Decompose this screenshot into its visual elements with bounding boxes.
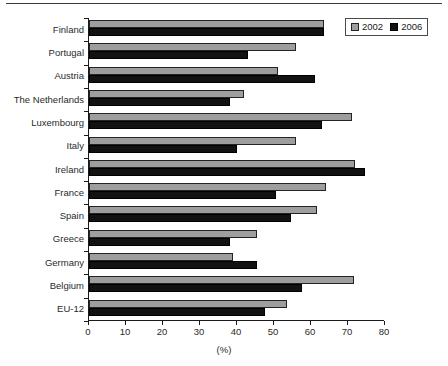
y-axis-tick: [84, 274, 88, 275]
y-axis-label-italy: Italy: [0, 141, 84, 151]
bar-group-ireland: [88, 158, 384, 181]
bar-2002-luxembourg: [89, 113, 352, 121]
x-axis-tick: [125, 321, 126, 325]
y-axis-label-finland: Finland: [0, 25, 84, 35]
bar-2006-spain: [89, 214, 291, 222]
x-axis-tick-label-40: 40: [221, 326, 251, 337]
bar-2006-the-netherlands: [89, 98, 230, 106]
bar-group-italy: [88, 135, 384, 158]
bar-2002-spain: [89, 206, 317, 214]
y-axis-label-ireland: Ireland: [0, 165, 84, 175]
bar-2002-ireland: [89, 160, 355, 168]
legend-label-2002: 2002: [362, 22, 383, 32]
bar-2006-finland: [89, 28, 324, 36]
legend-entry-2006: 2006: [390, 22, 422, 32]
x-axis-title: (%): [0, 344, 448, 355]
bar-2006-eu-12: [89, 308, 265, 316]
bar-2006-france: [89, 191, 276, 199]
bar-2006-germany: [89, 261, 257, 269]
bar-group-the-netherlands: [88, 88, 384, 111]
top-divider-rule: [6, 3, 442, 4]
y-axis-tick: [84, 181, 88, 182]
y-axis-tick: [84, 111, 88, 112]
y-axis-tick: [84, 158, 88, 159]
x-axis-tick-label-80: 80: [369, 326, 399, 337]
x-axis-tick: [236, 321, 237, 325]
bar-2006-luxembourg: [89, 121, 322, 129]
bar-2002-greece: [89, 230, 257, 238]
y-axis-tick: [84, 204, 88, 205]
x-axis-tick-label-10: 10: [110, 326, 140, 337]
bar-group-austria: [88, 65, 384, 88]
bar-group-eu-12: [88, 298, 384, 321]
y-axis-tick: [84, 18, 88, 19]
y-axis-label-spain: Spain: [0, 211, 84, 221]
bar-group-greece: [88, 228, 384, 251]
x-axis-tick-label-70: 70: [332, 326, 362, 337]
bar-2006-portugal: [89, 51, 248, 59]
y-axis-label-france: France: [0, 188, 84, 198]
x-axis-tick: [199, 321, 200, 325]
bar-2002-portugal: [89, 43, 296, 51]
y-axis-tick: [84, 41, 88, 42]
bar-2002-eu-12: [89, 300, 287, 308]
bar-2006-austria: [89, 75, 315, 83]
bar-2002-italy: [89, 137, 296, 145]
x-axis-tick: [384, 321, 385, 325]
y-axis-tick: [84, 88, 88, 89]
y-axis-tick: [84, 251, 88, 252]
grey-swatch-icon: [351, 23, 359, 31]
y-axis-tick: [84, 65, 88, 66]
x-axis-tick: [162, 321, 163, 325]
y-axis-label-germany: Germany: [0, 258, 84, 268]
y-axis-tick: [84, 135, 88, 136]
y-axis-tick: [84, 228, 88, 229]
legend-entry-2002: 2002: [351, 22, 383, 32]
bar-2002-austria: [89, 67, 278, 75]
x-axis-tick: [273, 321, 274, 325]
y-axis-label-greece: Greece: [0, 234, 84, 244]
bar-group-belgium: [88, 274, 384, 297]
bar-2002-finland: [89, 20, 324, 28]
black-swatch-icon: [390, 23, 398, 31]
x-axis-tick: [88, 321, 89, 325]
y-axis-label-portugal: Portugal: [0, 48, 84, 58]
bar-group-luxembourg: [88, 111, 384, 134]
bar-group-spain: [88, 204, 384, 227]
bar-group-germany: [88, 251, 384, 274]
bar-2002-the-netherlands: [89, 90, 244, 98]
x-axis-tick-label-60: 60: [295, 326, 325, 337]
x-axis-tick-label-50: 50: [258, 326, 288, 337]
bar-2006-belgium: [89, 284, 302, 292]
y-axis-category-labels: FinlandPortugalAustriaThe NetherlandsLux…: [0, 18, 84, 321]
y-axis-label-the-netherlands: The Netherlands: [0, 95, 84, 105]
y-axis-label-luxembourg: Luxembourg: [0, 118, 84, 128]
plot-area: [88, 18, 384, 321]
bar-group-finland: [88, 18, 384, 41]
chart-legend: 2002 2006: [345, 18, 428, 36]
bar-2002-germany: [89, 253, 233, 261]
x-axis-tick-label-0: 0: [73, 326, 103, 337]
chart-figure: FinlandPortugalAustriaThe NetherlandsLux…: [0, 0, 448, 366]
bar-2006-italy: [89, 145, 237, 153]
x-axis-tick: [310, 321, 311, 325]
bar-2006-ireland: [89, 168, 365, 176]
bar-2002-france: [89, 183, 326, 191]
x-axis-tick-label-20: 20: [147, 326, 177, 337]
bar-2002-belgium: [89, 276, 354, 284]
y-axis-label-belgium: Belgium: [0, 281, 84, 291]
legend-label-2006: 2006: [401, 22, 422, 32]
y-axis-tick: [84, 298, 88, 299]
y-axis-label-austria: Austria: [0, 71, 84, 81]
y-axis-label-eu-12: EU-12: [0, 304, 84, 314]
x-axis-tick-label-30: 30: [184, 326, 214, 337]
bar-group-portugal: [88, 41, 384, 64]
bar-2006-greece: [89, 238, 230, 246]
x-axis-tick: [347, 321, 348, 325]
bar-group-france: [88, 181, 384, 204]
